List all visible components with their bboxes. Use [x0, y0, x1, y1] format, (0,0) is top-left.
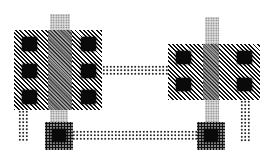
- left-contact-r3: [81, 90, 96, 104]
- right-poly-top: [205, 17, 219, 45]
- left-contact-r2: [81, 64, 96, 78]
- right-poly-gate: [203, 44, 219, 100]
- left-contact-l3: [22, 90, 37, 104]
- metal-top-link: [102, 65, 168, 75]
- left-contact-l1: [22, 37, 37, 51]
- left-bottom-contact: [52, 129, 66, 142]
- right-poly-bottom: [205, 100, 219, 124]
- right-contact-l1: [176, 51, 191, 64]
- right-contact-r2: [237, 78, 252, 91]
- left-contact-l2: [22, 64, 37, 78]
- right-vertical-metal: [240, 100, 251, 142]
- metal-bottom-link: [72, 130, 199, 140]
- left-poly-gate: [48, 30, 72, 110]
- right-contact-l2: [176, 78, 191, 91]
- left-contact-r1: [81, 37, 96, 51]
- right-contact-r1: [237, 51, 252, 64]
- right-bottom-contact: [204, 129, 218, 142]
- left-vertical-metal: [18, 110, 29, 142]
